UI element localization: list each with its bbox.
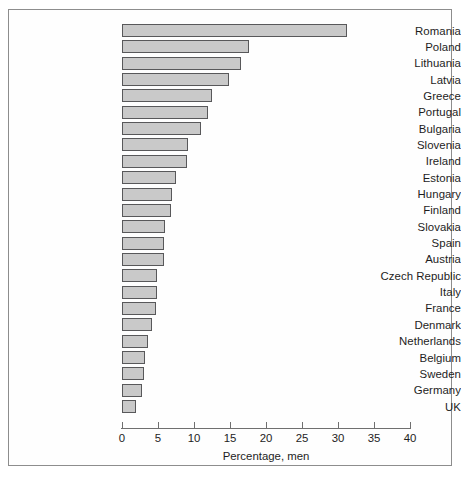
category-label-ireland: Ireland — [348, 155, 461, 167]
bar-fill — [122, 73, 229, 86]
bar-latvia — [122, 73, 229, 86]
category-label-latvia: Latvia — [348, 74, 461, 86]
figure-container: RomaniaPolandLithuaniaLatviaGreecePortug… — [0, 0, 461, 479]
x-tick-label-0: 0 — [102, 432, 142, 444]
bar-netherlands — [122, 335, 148, 348]
category-label-netherlands: Netherlands — [348, 335, 461, 347]
category-label-poland: Poland — [348, 41, 461, 53]
bar-estonia — [122, 171, 176, 184]
bar-finland — [122, 204, 171, 217]
bar-slovakia — [122, 220, 165, 233]
bar-fill — [122, 220, 165, 233]
bar-fill — [122, 367, 144, 380]
x-tick-label-20: 20 — [246, 432, 286, 444]
category-label-estonia: Estonia — [348, 172, 461, 184]
category-label-portugal: Portugal — [348, 106, 461, 118]
bar-bulgaria — [122, 122, 201, 135]
bar-lithuania — [122, 57, 241, 70]
bar-fill — [122, 400, 136, 413]
bar-fill — [122, 335, 148, 348]
bar-fill — [122, 40, 249, 53]
bar-fill — [122, 237, 164, 250]
bar-uk — [122, 400, 136, 413]
bar-fill — [122, 89, 212, 102]
bar-fill — [122, 286, 157, 299]
bar-hungary — [122, 188, 172, 201]
bar-slovenia — [122, 138, 188, 151]
category-label-czech-republic: Czech Republic — [348, 270, 461, 282]
category-label-slovenia: Slovenia — [348, 139, 461, 151]
bar-fill — [122, 351, 145, 364]
category-label-italy: Italy — [348, 286, 461, 298]
bar-fill — [122, 269, 157, 282]
bar-fill — [122, 57, 241, 70]
bar-czech-republic — [122, 269, 157, 282]
bar-fill — [122, 138, 188, 151]
x-tick-label-30: 30 — [318, 432, 358, 444]
bar-portugal — [122, 106, 208, 119]
bar-fill — [122, 24, 347, 37]
bar-france — [122, 302, 156, 315]
category-label-bulgaria: Bulgaria — [348, 123, 461, 135]
x-tick-15 — [230, 422, 231, 429]
x-tick-label-40: 40 — [390, 432, 430, 444]
bar-chart-plot: RomaniaPolandLithuaniaLatviaGreecePortug… — [0, 0, 461, 479]
bar-fill — [122, 302, 156, 315]
category-label-finland: Finland — [348, 204, 461, 216]
bar-germany — [122, 384, 142, 397]
category-label-hungary: Hungary — [348, 188, 461, 200]
bar-fill — [122, 106, 208, 119]
x-tick-label-10: 10 — [174, 432, 214, 444]
x-tick-35 — [374, 422, 375, 429]
x-tick-25 — [302, 422, 303, 429]
bar-greece — [122, 89, 212, 102]
x-tick-40 — [410, 422, 411, 429]
category-label-sweden: Sweden — [348, 368, 461, 380]
category-label-austria: Austria — [348, 253, 461, 265]
category-label-germany: Germany — [348, 384, 461, 396]
x-tick-label-15: 15 — [210, 432, 250, 444]
bar-fill — [122, 318, 152, 331]
bar-denmark — [122, 318, 152, 331]
category-label-uk: UK — [348, 401, 461, 413]
x-tick-label-35: 35 — [354, 432, 394, 444]
bar-poland — [122, 40, 249, 53]
bar-fill — [122, 384, 142, 397]
x-axis-title: Percentage, men — [122, 450, 410, 462]
x-tick-label-25: 25 — [282, 432, 322, 444]
bar-sweden — [122, 367, 144, 380]
category-label-spain: Spain — [348, 237, 461, 249]
bar-belgium — [122, 351, 145, 364]
category-label-slovakia: Slovakia — [348, 221, 461, 233]
category-label-france: France — [348, 302, 461, 314]
bar-romania — [122, 24, 347, 37]
category-label-belgium: Belgium — [348, 352, 461, 364]
bar-fill — [122, 122, 201, 135]
x-tick-20 — [266, 422, 267, 429]
category-label-lithuania: Lithuania — [348, 57, 461, 69]
category-label-romania: Romania — [348, 25, 461, 37]
bar-ireland — [122, 155, 187, 168]
bar-italy — [122, 286, 157, 299]
bar-fill — [122, 253, 164, 266]
category-label-greece: Greece — [348, 90, 461, 102]
bar-spain — [122, 237, 164, 250]
bar-fill — [122, 155, 187, 168]
x-tick-5 — [158, 422, 159, 429]
x-tick-10 — [194, 422, 195, 429]
category-label-denmark: Denmark — [348, 319, 461, 331]
x-tick-0 — [122, 422, 123, 429]
x-tick-label-5: 5 — [138, 432, 178, 444]
bar-fill — [122, 204, 171, 217]
bar-austria — [122, 253, 164, 266]
bar-fill — [122, 171, 176, 184]
bar-fill — [122, 188, 172, 201]
x-tick-30 — [338, 422, 339, 429]
